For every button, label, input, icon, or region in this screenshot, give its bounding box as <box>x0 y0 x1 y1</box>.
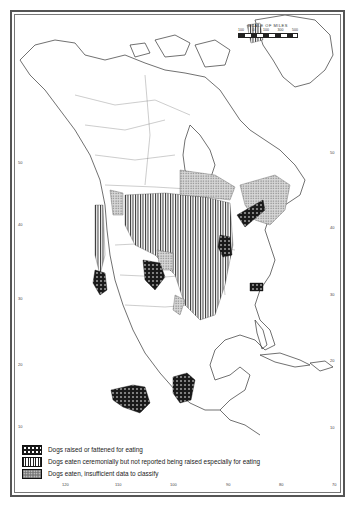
scale-tick: 100 <box>263 28 269 32</box>
north-america-map <box>15 15 340 492</box>
legend-label: Dogs eaten ceremonially but not reported… <box>48 458 260 465</box>
lon-label-bottom: 110 <box>115 482 121 487</box>
legend-label: Dogs eaten, insufficient data to classif… <box>48 470 158 477</box>
region-ceremonial <box>95 23 263 320</box>
lat-label-right: 40 <box>330 225 334 230</box>
lat-label-left: 10 <box>18 424 22 429</box>
scale-tick: 100 <box>238 28 244 32</box>
lon-label-bottom: 90 <box>226 482 230 487</box>
lon-label-bottom: 120 <box>62 482 69 487</box>
dotted-pattern-swatch <box>22 445 42 455</box>
scale-tick: 500 <box>292 28 298 32</box>
lat-label-left: 50 <box>18 160 22 165</box>
lat-label-right: 20 <box>330 358 334 363</box>
scale-bar <box>238 33 298 38</box>
lat-label-left: 30 <box>18 296 22 301</box>
legend-item-ceremonial: Dogs eaten ceremonially but not reported… <box>22 456 260 467</box>
scale-numbers: 100 0 100 300 500 <box>238 28 298 32</box>
lat-label-right: 10 <box>330 425 334 430</box>
scale-tick: 0 <box>253 28 255 32</box>
stipple-pattern-swatch <box>22 469 42 479</box>
lat-label-left: 40 <box>18 222 22 227</box>
scale-tick: 300 <box>278 28 284 32</box>
lat-label-left: 20 <box>18 362 22 367</box>
lat-label-right: 50 <box>330 150 334 155</box>
lon-label-bottom: 70 <box>332 482 336 487</box>
legend-item-insufficient: Dogs eaten, insufficient data to classif… <box>22 468 260 479</box>
lat-label-right: 30 <box>330 292 334 297</box>
map-legend: Dogs raised or fattened for eating Dogs … <box>22 444 260 480</box>
legend-label: Dogs raised or fattened for eating <box>48 446 143 453</box>
scale-of-miles: SCALE OF MILES 100 0 100 300 500 <box>238 23 298 38</box>
lon-label-bottom: 100 <box>170 482 177 487</box>
vertical-lines-pattern-swatch <box>22 457 42 467</box>
legend-item-raised: Dogs raised or fattened for eating <box>22 444 260 455</box>
lon-label-bottom: 80 <box>279 482 283 487</box>
